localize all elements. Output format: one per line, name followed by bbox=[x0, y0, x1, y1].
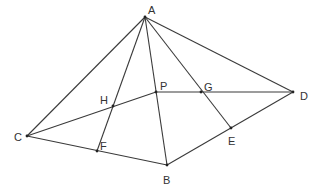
segment-af bbox=[97, 17, 145, 151]
segment-ac bbox=[27, 17, 145, 136]
label-g: G bbox=[204, 81, 213, 93]
labels-group: ABCDEFGHP bbox=[14, 4, 308, 186]
point-c bbox=[26, 135, 29, 138]
point-d bbox=[292, 91, 295, 94]
label-p: P bbox=[160, 80, 167, 92]
label-c: C bbox=[14, 131, 22, 143]
segment-ae bbox=[145, 17, 231, 128]
point-f bbox=[96, 150, 99, 153]
point-h bbox=[112, 105, 115, 108]
point-g bbox=[200, 91, 203, 94]
label-a: A bbox=[148, 4, 156, 16]
point-e bbox=[230, 127, 233, 130]
point-b bbox=[166, 164, 169, 167]
segment-cp bbox=[27, 92, 156, 136]
point-a bbox=[144, 16, 147, 19]
geometry-diagram: ABCDEFGHP bbox=[0, 0, 319, 193]
label-d: D bbox=[300, 90, 308, 102]
label-f: F bbox=[100, 140, 107, 152]
label-e: E bbox=[228, 135, 235, 147]
point-p bbox=[155, 91, 158, 94]
label-h: H bbox=[100, 94, 108, 106]
label-b: B bbox=[163, 174, 170, 186]
